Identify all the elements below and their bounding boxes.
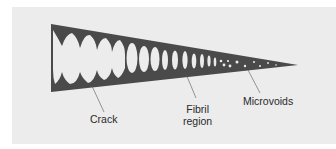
microvoids-label: Microvoids bbox=[243, 95, 293, 107]
microvoids-leader bbox=[248, 70, 260, 93]
crack-label: Crack bbox=[90, 113, 117, 125]
fibril-label-line1: Fibril bbox=[183, 103, 212, 115]
craze-wedge-diagram bbox=[0, 0, 336, 149]
fibril-leader bbox=[186, 74, 196, 98]
fibril-label-line2: region bbox=[183, 115, 212, 127]
crack-leader bbox=[92, 86, 104, 112]
fibril-region-label: Fibril region bbox=[183, 103, 212, 127]
